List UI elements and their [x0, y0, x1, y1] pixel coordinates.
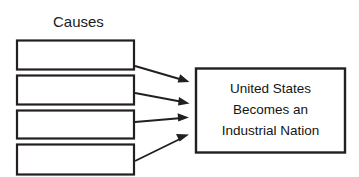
- cause-and-effect-diagram: Causes United States Becomes an Industri…: [0, 0, 359, 177]
- effect-line-1: United States: [230, 81, 311, 96]
- cause-box-4[interactable]: [17, 145, 134, 175]
- cause-box-2[interactable]: [17, 76, 134, 105]
- arrow-cause-1-to-effect: [135, 66, 190, 83]
- diagram-canvas: Causes United States Becomes an Industri…: [0, 0, 359, 177]
- arrow-head-icon: [178, 97, 190, 106]
- cause-box-1[interactable]: [17, 41, 134, 70]
- cause-box-3[interactable]: [17, 111, 134, 139]
- arrow-cause-3-to-effect: [135, 113, 189, 122]
- effect-line-2: Becomes an: [233, 102, 308, 117]
- arrow-head-icon: [178, 74, 190, 82]
- arrow-cause-4-to-effect: [135, 134, 189, 161]
- arrow-head-icon: [178, 113, 189, 121]
- causes-heading: Causes: [53, 13, 104, 30]
- effect-line-3: Industrial Nation: [222, 123, 320, 138]
- arrow-cause-2-to-effect: [135, 93, 190, 106]
